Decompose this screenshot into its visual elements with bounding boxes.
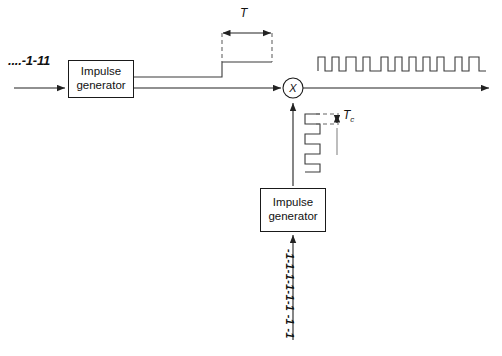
chip-period-subscript: c bbox=[350, 115, 354, 124]
diagram-canvas: Impulse generator Impulse generator X ..… bbox=[0, 0, 502, 356]
code-sequence-label: -1-1-1-1-1-1 -1 -1 bbox=[284, 249, 296, 339]
diagram-vector-layer bbox=[0, 0, 502, 356]
data-pulse-waveform bbox=[134, 62, 272, 77]
chip-period-label: Tc bbox=[343, 108, 354, 124]
output-spread-waveform bbox=[318, 57, 486, 71]
symbol-period-label: T bbox=[240, 6, 247, 20]
impulse-generator-code-line2: generator bbox=[268, 210, 317, 224]
impulse-generator-code-block[interactable]: Impulse generator bbox=[260, 188, 326, 232]
impulse-generator-code-line1: Impulse bbox=[273, 196, 313, 210]
input-sequence-label: ....-1-11 bbox=[8, 53, 50, 68]
impulse-generator-data-line2: generator bbox=[76, 79, 125, 93]
multiplier-symbol: X bbox=[283, 78, 303, 98]
chip-sequence-waveform bbox=[305, 114, 320, 172]
impulse-generator-data-block[interactable]: Impulse generator bbox=[68, 60, 134, 98]
impulse-generator-data-line1: Impulse bbox=[81, 65, 121, 79]
